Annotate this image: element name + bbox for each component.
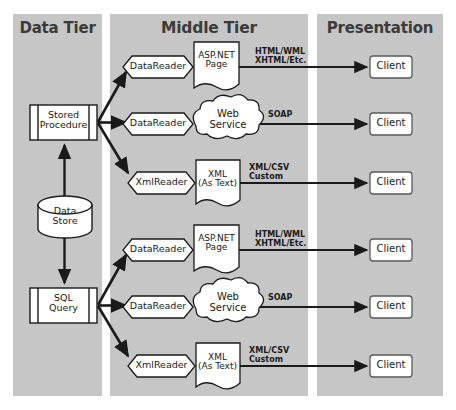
node-processor-6[interactable] (196, 343, 240, 389)
node-processor-4[interactable] (194, 225, 239, 273)
node-sql-query[interactable] (30, 288, 97, 323)
node-data-store[interactable] (38, 196, 92, 238)
node-client-4[interactable] (370, 239, 412, 261)
node-processor-3[interactable] (196, 160, 240, 206)
arrow-sqlquery-to-reader-6 (98, 306, 128, 356)
node-client-5[interactable] (370, 296, 412, 318)
node-client-2[interactable] (370, 113, 412, 135)
node-client-6[interactable] (370, 355, 412, 377)
node-client-3[interactable] (370, 172, 412, 194)
node-reader-1[interactable] (123, 56, 193, 78)
node-reader-6[interactable] (128, 355, 195, 377)
node-reader-5[interactable] (123, 296, 193, 318)
node-client-1[interactable] (370, 56, 412, 78)
node-processor-2[interactable] (193, 95, 263, 139)
node-reader-3[interactable] (128, 172, 195, 194)
node-processor-5[interactable] (193, 278, 263, 322)
diagram-shapes-layer (0, 0, 456, 410)
arrow-sqlquery-to-reader-4 (98, 255, 126, 305)
diagram-canvas: Data Tier Middle Tier Presentation (0, 0, 456, 410)
node-processor-1[interactable] (194, 42, 239, 90)
node-reader-2[interactable] (123, 113, 193, 135)
arrow-storedprocedure-to-reader-3 (98, 123, 128, 173)
node-stored-procedure[interactable] (30, 105, 97, 140)
arrow-storedprocedure-to-reader-1 (98, 72, 126, 122)
node-reader-4[interactable] (123, 239, 193, 261)
